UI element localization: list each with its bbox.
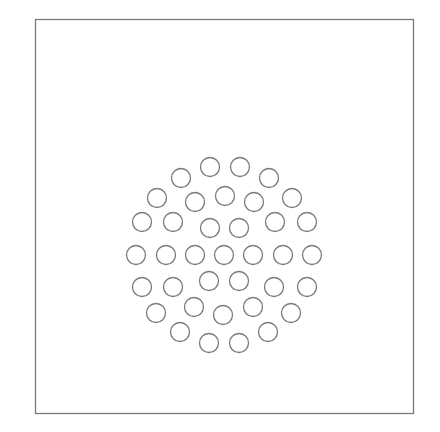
- circle: [185, 298, 204, 317]
- circle: [230, 219, 249, 238]
- circle: [200, 272, 219, 291]
- circle: [245, 193, 264, 212]
- circle: [303, 246, 322, 265]
- circle: [148, 189, 167, 208]
- circle: [186, 246, 205, 265]
- circle: [282, 304, 301, 323]
- circle: [298, 278, 317, 297]
- circle: [231, 158, 250, 177]
- circle: [186, 193, 205, 212]
- circle: [214, 306, 233, 325]
- circle: [274, 246, 293, 265]
- circle: [283, 189, 302, 208]
- circle: [265, 278, 284, 297]
- circle: [215, 246, 234, 265]
- diagram-canvas: [0, 0, 440, 432]
- circle: [172, 169, 191, 188]
- circle: [147, 304, 166, 323]
- circle: [298, 213, 317, 232]
- frame-border: [36, 20, 414, 414]
- circle: [260, 169, 279, 188]
- circle-cluster: [127, 158, 322, 353]
- circle: [230, 334, 249, 353]
- circle: [164, 278, 183, 297]
- circle: [201, 158, 220, 177]
- circle: [200, 334, 219, 353]
- circle: [164, 213, 183, 232]
- circle: [216, 187, 235, 206]
- circle: [230, 272, 249, 291]
- circle: [133, 213, 152, 232]
- circle: [244, 298, 263, 317]
- circle: [244, 246, 263, 265]
- circle: [133, 278, 152, 297]
- circle: [171, 323, 190, 342]
- circle: [201, 219, 220, 238]
- circle: [266, 213, 285, 232]
- circle: [157, 246, 176, 265]
- circle: [259, 323, 278, 342]
- circle: [127, 246, 146, 265]
